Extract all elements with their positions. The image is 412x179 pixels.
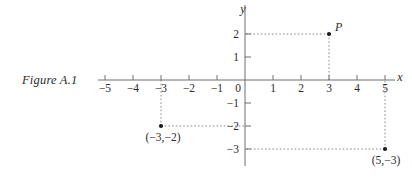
- x-axis-tick-label: −5: [99, 82, 111, 94]
- y-axis-tick-label: −1: [227, 97, 239, 109]
- figure-container: Figure A.1 −5−4−3−2−112345 21−1−2−3 0 x …: [0, 0, 412, 179]
- x-axis-tick-label: 4: [354, 82, 360, 94]
- y-axis-tick-label: −3: [227, 143, 239, 155]
- y-axis-tick-label: 2: [233, 28, 239, 40]
- x-axis-label: x: [396, 70, 403, 84]
- x-axis-tick-label: 2: [298, 82, 304, 94]
- data-point-P: [327, 32, 331, 36]
- x-axis-tick-label: −1: [211, 82, 223, 94]
- data-point-point-5-neg3: [383, 147, 387, 151]
- x-axis-tick-label: −3: [155, 82, 167, 94]
- x-axis-tick-label: −2: [183, 82, 195, 94]
- y-axis-tick-label: −2: [227, 120, 239, 132]
- data-point-label-point-5-neg3: (5,−3): [372, 154, 401, 167]
- y-axis-tick-label: 1: [233, 51, 239, 63]
- x-axis-tick-labels-group: −5−4−3−2−112345: [99, 82, 388, 94]
- x-axis-tick-label: 3: [326, 82, 332, 94]
- origin-label: 0: [235, 82, 241, 94]
- data-point-point-neg3-neg2: [159, 124, 163, 128]
- y-axis-label: y: [239, 2, 246, 16]
- x-axis-tick-label: −4: [127, 82, 139, 94]
- x-axis-tick-label: 5: [382, 82, 388, 94]
- data-point-label-point-neg3-neg2: (−3,−2): [145, 131, 180, 144]
- data-point-label-P: P: [334, 20, 343, 34]
- x-axis-tick-label: 1: [270, 82, 276, 94]
- coordinate-plane-chart: −5−4−3−2−112345 21−1−2−3 0 x y P(−3,−2)(…: [0, 0, 412, 179]
- y-axis-ticks-group: [245, 34, 251, 149]
